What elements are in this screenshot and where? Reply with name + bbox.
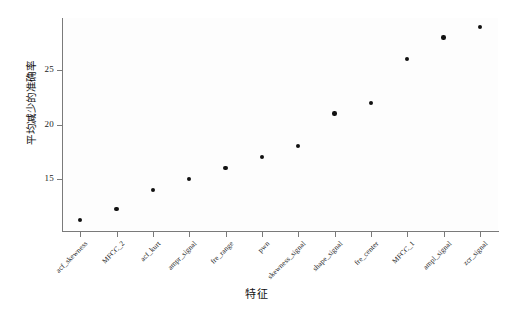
x-tick-mark — [117, 232, 118, 237]
x-tick-mark — [226, 232, 227, 237]
data-point — [332, 111, 336, 115]
x-tick-mark — [298, 232, 299, 237]
y-tick-mark — [57, 179, 62, 180]
y-tick-mark — [57, 125, 62, 126]
data-point — [478, 25, 482, 29]
x-tick-label: MFCC_1 — [390, 239, 416, 265]
x-tick-label: skewness_signal — [266, 239, 308, 281]
x-tick-label: acf_kurt — [138, 239, 162, 263]
feature-importance-dot-plot: 152025 acf_skewnessMFCC_2acf_kurtampr_si… — [0, 0, 514, 309]
data-point — [151, 188, 155, 192]
x-tick-label: shape_signal — [310, 239, 344, 273]
x-tick-mark — [407, 232, 408, 237]
x-tick-mark — [444, 232, 445, 237]
x-tick-label: acf_skewness — [54, 239, 90, 275]
x-tick-mark — [80, 232, 81, 237]
data-point — [441, 35, 445, 39]
x-tick-label: MFCC_2 — [100, 239, 126, 265]
x-tick-mark — [371, 232, 372, 237]
data-point — [369, 101, 373, 105]
plot-area — [62, 18, 498, 230]
x-tick-mark — [189, 232, 190, 237]
x-tick-mark — [480, 232, 481, 237]
x-tick-label: ampr_signal — [166, 239, 199, 272]
y-axis-line — [62, 18, 63, 231]
x-tick-mark — [335, 232, 336, 237]
data-point — [223, 166, 227, 170]
x-tick-label: fre_center — [352, 239, 380, 267]
x-tick-label: ampl_signal — [420, 239, 452, 271]
y-axis-title: 平均减少的准确率 — [23, 13, 38, 193]
y-tick-mark — [57, 70, 62, 71]
x-tick-mark — [262, 232, 263, 237]
x-axis-line — [62, 231, 499, 232]
x-tick-mark — [153, 232, 154, 237]
x-axis-title: 特征 — [0, 285, 514, 301]
x-tick-label: fre_range — [208, 239, 235, 266]
x-tick-label: pwn — [256, 239, 271, 254]
x-tick-label: zcr_signal — [461, 239, 489, 267]
